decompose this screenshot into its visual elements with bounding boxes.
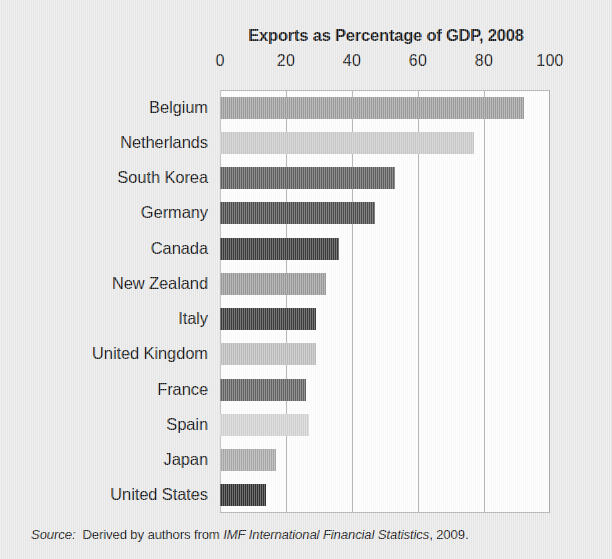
x-axis-tick-labels: 020406080100 [0,52,612,76]
bar-row [220,302,550,337]
bar-italy [220,308,316,330]
bar-united-kingdom [220,343,316,365]
x-tick-label-20: 20 [277,52,295,70]
bar-south-korea [220,167,395,189]
category-label-netherlands: Netherlands [120,133,208,152]
category-label-united-states: United States [110,485,208,504]
x-tick-label-40: 40 [343,52,361,70]
category-label-france: France [157,380,208,399]
source-publication: IMF International Financial Statistics [223,527,429,542]
category-label-new-zealand: New Zealand [112,274,208,293]
source-prefix: Source: [31,527,75,542]
x-tick-label-80: 80 [475,52,493,70]
category-label-south-korea: South Korea [117,168,208,187]
source-body-after: , 2009. [429,527,468,542]
category-label-italy: Italy [178,309,208,328]
chart-figure: Exports as Percentage of GDP, 2008 02040… [0,0,612,559]
bar-japan [220,449,276,471]
chart-title: Exports as Percentage of GDP, 2008 [216,26,556,45]
x-tick-label-100: 100 [536,52,564,70]
bar-row [220,478,550,513]
source-body-before: Derived by authors from [82,527,223,542]
bar-row [220,337,550,372]
x-tick-label-60: 60 [409,52,427,70]
bar-row [220,90,550,125]
bar-row [220,125,550,160]
category-label-united-kingdom: United Kingdom [92,344,208,363]
bar-united-states [220,484,266,506]
bar-row [220,443,550,478]
bar-new-zealand [220,273,326,295]
bar-row [220,407,550,442]
bar-germany [220,202,375,224]
x-tick-label-0: 0 [215,52,224,70]
bar-netherlands [220,132,474,154]
category-axis-labels: BelgiumNetherlandsSouth KoreaGermanyCana… [0,90,214,513]
category-label-spain: Spain [166,415,208,434]
bar-row [220,231,550,266]
bars-layer [220,90,550,513]
category-label-germany: Germany [141,203,208,222]
category-label-japan: Japan [164,450,208,469]
bar-row [220,161,550,196]
bar-belgium [220,97,524,119]
bar-row [220,372,550,407]
category-label-belgium: Belgium [149,98,208,117]
category-label-canada: Canada [151,239,208,258]
bar-canada [220,238,339,260]
bar-france [220,379,306,401]
bar-spain [220,414,309,436]
source-note: Source: Derived by authors from IMF Inte… [31,527,468,542]
bar-row [220,196,550,231]
bar-row [220,266,550,301]
